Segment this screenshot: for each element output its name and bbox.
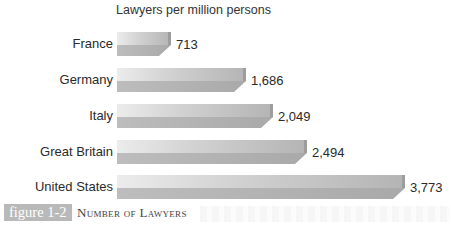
bar-end-cap — [168, 32, 171, 45]
category-label: Great Britain — [40, 144, 113, 159]
value-label: 1,686 — [251, 73, 284, 88]
bar-row: Italy2,049 — [0, 104, 451, 128]
value-label: 3,773 — [410, 180, 443, 195]
bar-row: France713 — [0, 32, 451, 56]
value-label: 2,049 — [278, 109, 311, 124]
bar-top-face — [117, 68, 246, 81]
bar-bottom-face — [117, 81, 246, 92]
bar-end-cap — [304, 140, 307, 153]
bar — [117, 175, 405, 199]
bar-end-cap — [402, 175, 405, 188]
bar — [117, 104, 273, 128]
bar-row: Germany1,686 — [0, 68, 451, 92]
bar-top-face — [117, 175, 405, 188]
category-label: Italy — [89, 108, 113, 123]
value-label: 2,494 — [312, 145, 345, 160]
bar-row: Great Britain2,494 — [0, 140, 451, 164]
bar-bottom-face — [117, 153, 307, 164]
bar-top-face — [117, 32, 171, 45]
bar — [117, 140, 307, 164]
category-label: Germany — [60, 72, 113, 87]
bar — [117, 32, 171, 56]
figure-caption: Number of Lawyers — [77, 205, 187, 221]
chart-title: Lawyers per million persons — [116, 3, 271, 17]
bar-top-face — [117, 104, 273, 117]
bar — [117, 68, 246, 92]
category-label: France — [73, 36, 113, 51]
bar-row: United States3,773 — [0, 175, 451, 199]
bar-end-cap — [270, 104, 273, 117]
bar-end-cap — [243, 68, 246, 81]
bar-bottom-face — [117, 45, 171, 56]
figure-badge: figure 1-2 — [4, 204, 72, 221]
faded-background-text — [200, 206, 450, 222]
bar-bottom-face — [117, 117, 273, 128]
bar-bottom-face — [117, 188, 405, 199]
value-label: 713 — [176, 37, 198, 52]
bar-top-face — [117, 140, 307, 153]
category-label: United States — [35, 179, 113, 194]
